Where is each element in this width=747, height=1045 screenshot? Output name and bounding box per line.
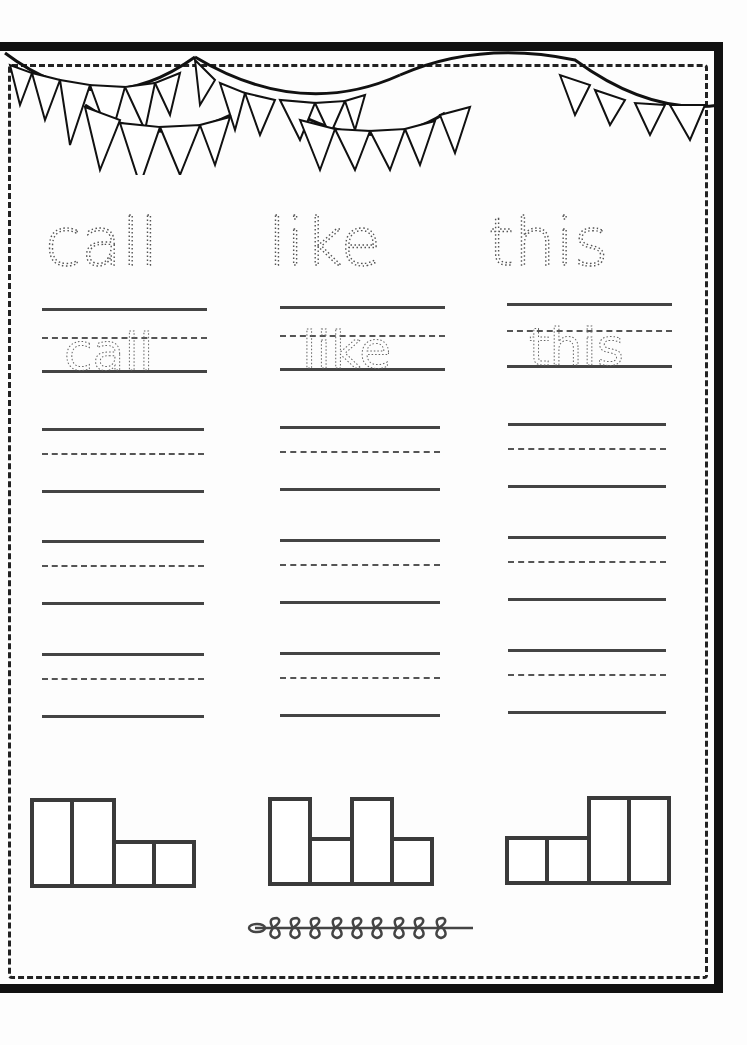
practice-row-this-2[interactable] [508,536,666,606]
dotted-word-call: call [45,205,265,275]
practice-row-call-1[interactable] [42,428,204,498]
svg-text:this: this [488,205,608,280]
practice-row-this-3[interactable] [508,649,666,719]
trace-line-this: this [507,300,672,370]
trace-line-like: like [280,303,445,373]
bunting-banner-icon [0,45,747,175]
leaf-sprig-icon [245,912,475,952]
dotted-word-this: this [488,205,708,275]
practice-row-call-2[interactable] [42,540,204,610]
word-shape-this [505,795,675,894]
practice-row-call-3[interactable] [42,653,204,723]
practice-row-this-1[interactable] [508,423,666,493]
svg-text:call: call [64,322,153,373]
practice-row-like-1[interactable] [280,426,440,496]
word-shape-like [268,796,438,895]
svg-text:call: call [45,205,158,280]
word-shape-call [30,797,200,896]
svg-text:like: like [302,320,391,371]
svg-text:like: like [268,205,381,280]
practice-row-like-2[interactable] [280,539,440,609]
practice-row-like-3[interactable] [280,652,440,722]
dotted-word-like: like [268,205,488,275]
svg-text:this: this [529,317,624,368]
trace-line-call: call [42,305,207,375]
